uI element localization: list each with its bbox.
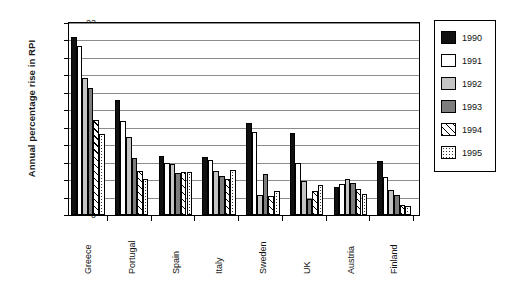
x-axis-category-label: Finland: [389, 244, 399, 274]
legend-label: 1995: [462, 148, 482, 158]
bar: [362, 194, 368, 215]
legend-item[interactable]: 1990: [441, 26, 495, 49]
bar-group: [332, 23, 376, 215]
bar: [318, 185, 324, 215]
legend-item[interactable]: 1994: [441, 118, 495, 141]
bar-group: [200, 23, 244, 215]
legend-label: 1991: [462, 56, 482, 66]
bar-chart: Annual percentage rise in RPI 0246810121…: [0, 0, 519, 282]
x-axis-category-label: Spain: [171, 251, 181, 274]
x-axis-separator: [326, 216, 327, 221]
bar-group: [288, 23, 332, 215]
bar: [187, 172, 193, 215]
legend-swatch-icon: [441, 123, 456, 136]
x-axis-category-label: Greece: [83, 244, 93, 274]
bar: [143, 179, 149, 215]
y-axis-title: Annual percentage rise in RPI: [26, 9, 37, 209]
bar: [274, 191, 280, 215]
x-axis-separator: [282, 216, 283, 221]
bars-layer: [69, 23, 419, 215]
x-axis-separator: [238, 216, 239, 221]
x-axis-separator: [107, 216, 108, 221]
x-axis-category-label: UK: [302, 261, 312, 274]
legend-swatch-icon: [441, 77, 456, 90]
bar: [99, 134, 105, 215]
bar-group: [157, 23, 201, 215]
legend-swatch-icon: [441, 31, 456, 44]
x-axis-category-label: Sweden: [258, 241, 268, 274]
x-axis-separator: [151, 216, 152, 221]
legend-item[interactable]: 1991: [441, 49, 495, 72]
x-axis-separator: [194, 216, 195, 221]
legend-label: 1993: [462, 102, 482, 112]
bar-group: [375, 23, 419, 215]
bar-group: [244, 23, 288, 215]
legend: 199019911992199319941995: [434, 20, 496, 172]
x-axis-separator: [369, 216, 370, 221]
legend-label: 1994: [462, 125, 482, 135]
bar: [405, 206, 411, 215]
legend-swatch-icon: [441, 146, 456, 159]
legend-swatch-icon: [441, 54, 456, 67]
legend-item[interactable]: 1993: [441, 95, 495, 118]
x-axis-category-label: Austria: [346, 246, 356, 274]
legend-item[interactable]: 1992: [441, 72, 495, 95]
x-axis-category-label: Italy: [214, 257, 224, 274]
x-axis-category-label: Portugal: [127, 240, 137, 274]
legend-label: 1990: [462, 33, 482, 43]
legend-label: 1992: [462, 79, 482, 89]
bar-group: [113, 23, 157, 215]
legend-item[interactable]: 1995: [441, 141, 495, 164]
bar-group: [69, 23, 113, 215]
bar: [230, 170, 236, 215]
x-axis-separator: [413, 216, 414, 221]
legend-swatch-icon: [441, 100, 456, 113]
